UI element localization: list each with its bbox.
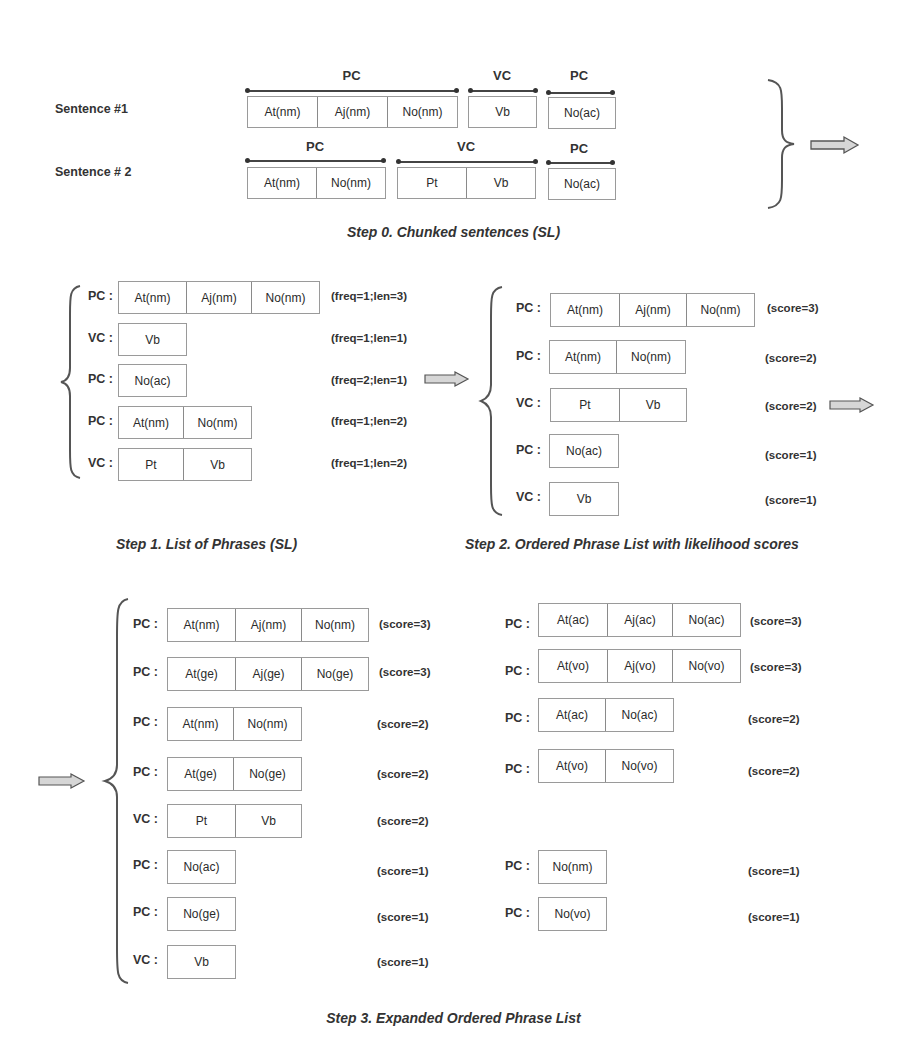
row-label: PC : [133, 715, 158, 729]
phrase-score: (score=2) [765, 352, 816, 364]
step1-caption: Step 1. List of Phrases (SL) [116, 536, 297, 552]
token: No(nm) [686, 294, 754, 326]
phrase-meta: (freq=2;len=1) [331, 374, 407, 386]
sentence-2-label: Sentence # 2 [55, 165, 131, 179]
curly-brace-icon [480, 285, 506, 517]
phrase-score: (score=2) [377, 718, 428, 730]
row-label: PC : [516, 301, 541, 315]
token: At(nm) [119, 282, 186, 313]
row-label: PC : [505, 859, 530, 873]
token: Pt [168, 805, 235, 837]
row-label: PC : [516, 349, 541, 363]
chunk-label: VC [396, 139, 536, 154]
token-group: At(nm) Aj(nm) No(nm) [167, 608, 369, 642]
token: No(nm) [251, 282, 319, 313]
token: No(nm) [316, 168, 385, 198]
phrase-score: (score=2) [765, 400, 816, 412]
token-group: At(nm) No(nm) [549, 340, 686, 374]
chunk-span-line [398, 161, 536, 163]
row-label: VC : [516, 396, 541, 410]
token: Aj(vo) [607, 650, 672, 682]
row-label: VC : [88, 456, 113, 470]
token: No(nm) [387, 97, 457, 127]
token-group: Pt Vb [118, 448, 252, 481]
token-group: At(ge) No(ge) [167, 757, 302, 791]
row-label: VC : [133, 953, 158, 967]
token: No(ac) [549, 169, 615, 199]
token: At(nm) [168, 609, 235, 641]
phrase-meta: (freq=1;len=2) [331, 415, 407, 427]
token-group: No(ge) [167, 897, 236, 931]
curly-brace-icon [104, 597, 132, 985]
token: At(ac) [539, 699, 605, 731]
token: Aj(ge) [235, 658, 301, 690]
chunk-span-line [247, 90, 457, 92]
token: Vb [235, 805, 301, 837]
row-label: PC : [88, 289, 113, 303]
token-group: No(ac) [549, 434, 619, 468]
token-group: At(nm) No(nm) [118, 406, 252, 439]
token-group: Vb [468, 96, 537, 128]
token: No(ge) [168, 898, 235, 930]
token: No(nm) [233, 708, 301, 740]
token: No(vo) [539, 898, 606, 930]
phrase-score: (score=3) [379, 666, 430, 678]
token-group: At(vo) Aj(vo) No(vo) [538, 649, 741, 683]
chunk-label: VC [468, 68, 536, 83]
token-group: At(nm) Aj(nm) No(nm) [247, 96, 458, 128]
token-group: At(nm) No(nm) [247, 167, 386, 199]
row-label: PC : [88, 372, 113, 386]
token: At(ge) [168, 758, 233, 790]
phrase-score: (score=3) [379, 618, 430, 630]
sentence-1-label: Sentence #1 [55, 102, 128, 116]
token-group: Pt Vb [167, 804, 302, 838]
token-group: No(ac) [548, 168, 616, 200]
token-group: At(nm) Aj(nm) No(nm) [118, 281, 320, 314]
row-label: PC : [505, 762, 530, 776]
phrase-score: (score=1) [748, 865, 799, 877]
token-group: At(ac) Aj(ac) No(ac) [538, 603, 741, 637]
chunk-label: PC [245, 68, 458, 83]
phrase-score: (score=1) [765, 494, 816, 506]
row-label: PC : [133, 617, 158, 631]
token: At(nm) [119, 407, 183, 438]
right-arrow-icon [38, 773, 86, 789]
phrase-score: (score=2) [748, 765, 799, 777]
chunk-label: PC [545, 68, 613, 83]
row-label: PC : [505, 617, 530, 631]
phrase-score: (score=3) [750, 615, 801, 627]
row-label: PC : [516, 443, 541, 457]
row-label: PC : [133, 905, 158, 919]
phrase-score: (score=2) [748, 713, 799, 725]
token: Pt [551, 389, 619, 421]
row-label: PC : [88, 414, 113, 428]
token: No(ac) [605, 699, 673, 731]
token-group: At(ge) Aj(ge) No(ge) [167, 657, 369, 691]
chunk-label: PC [545, 141, 613, 156]
token-group: No(ac) [118, 364, 187, 397]
token: At(vo) [539, 750, 605, 782]
chunk-span-line [548, 162, 613, 164]
right-arrow-icon [424, 371, 470, 387]
token: At(ge) [168, 658, 235, 690]
token: No(ac) [168, 851, 235, 883]
row-label: PC : [133, 858, 158, 872]
token: At(nm) [551, 294, 619, 326]
token: No(ge) [233, 758, 301, 790]
chunk-span-line [470, 90, 536, 92]
phrase-meta: (freq=1;len=1) [331, 332, 407, 344]
token: No(nm) [183, 407, 251, 438]
row-label: PC : [505, 906, 530, 920]
token-group: No(vo) [538, 897, 607, 931]
step0-caption: Step 0. Chunked sentences (SL) [0, 224, 907, 240]
token: Pt [398, 168, 466, 198]
chunk-span-line [548, 92, 613, 94]
token: No(ac) [672, 604, 740, 636]
token: Aj(nm) [619, 294, 686, 326]
token: At(nm) [248, 97, 317, 127]
token: No(ge) [301, 658, 368, 690]
token: No(nm) [301, 609, 368, 641]
token: No(ac) [549, 98, 615, 128]
token-group: Pt Vb [550, 388, 687, 422]
token: Pt [119, 449, 183, 480]
